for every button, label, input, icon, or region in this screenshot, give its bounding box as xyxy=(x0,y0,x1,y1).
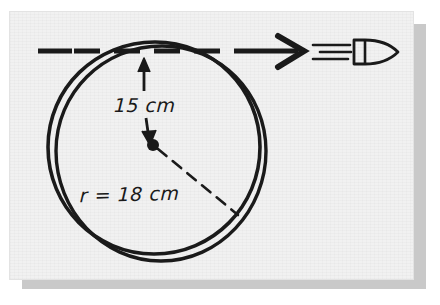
thickness-label: 15 cm xyxy=(113,94,176,116)
thickness-arrow-up-head-icon xyxy=(138,58,150,72)
diagram-drawing xyxy=(10,12,413,279)
bullet-icon xyxy=(354,40,398,64)
figure-root: 15 cm r = 18 cm xyxy=(0,0,440,305)
figure-panel: 15 cm r = 18 cm xyxy=(9,11,414,280)
radius-label: r = 18 cm xyxy=(79,182,180,207)
